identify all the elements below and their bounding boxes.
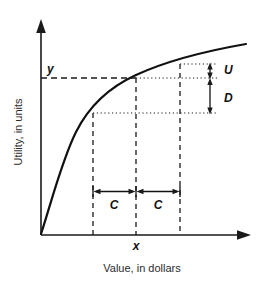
cost-label-right: C — [154, 198, 163, 212]
upside-label: U — [224, 63, 233, 77]
x-tick-label: x — [132, 239, 141, 253]
y-axis-title: Utility, in units — [12, 98, 24, 166]
x-axis-title: Value, in dollars — [103, 262, 181, 274]
cost-measurement-group — [93, 186, 180, 197]
utility-chart-svg: y x U D C C Value, in dollars Utility, i… — [0, 0, 265, 285]
cost-left-arrowhead-right — [129, 189, 136, 194]
cost-right-arrowhead-right — [173, 189, 180, 194]
utility-curve-path — [41, 44, 246, 234]
x-axis-arrowhead — [237, 230, 251, 240]
utility-measurement-group — [207, 63, 212, 115]
upside-arrowhead-top — [207, 63, 212, 70]
downside-label: D — [224, 91, 233, 105]
downside-arrowhead-top — [207, 78, 212, 85]
utility-curve-figure: y x U D C C Value, in dollars Utility, i… — [0, 0, 265, 285]
y-axis-arrowhead — [36, 19, 46, 33]
cost-right-arrowhead-left — [137, 189, 144, 194]
y-tick-label: y — [46, 62, 55, 76]
axes-group — [36, 19, 251, 240]
vertical-reference-lines — [93, 64, 180, 235]
horizontal-reference-lines — [41, 64, 218, 113]
cost-left-arrowhead-left — [94, 189, 101, 194]
utility-curve-group — [41, 44, 246, 234]
labels-group: y x U D C C Value, in dollars Utility, i… — [12, 62, 233, 274]
cost-label-left: C — [110, 198, 119, 212]
